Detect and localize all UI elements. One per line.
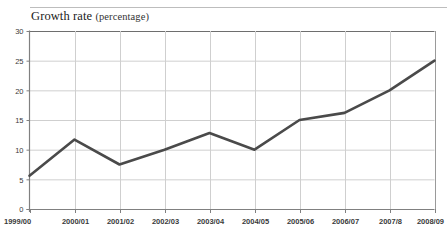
x-axis-tick-label: 2006/07 [332,217,359,226]
gridlines [30,31,436,209]
x-axis-tick-labels: 1999/002000/012001/022002/032003/042004/… [4,217,444,226]
y-axis-tick-label: 5 [19,176,23,185]
y-axis-tick-label: 20 [15,87,23,96]
y-axis-tick-label: 0 [19,205,23,214]
y-axis-tick-labels: 051015202530 [15,27,23,214]
x-axis-tick-label: 2003/04 [197,217,225,226]
chart-figure: Growth rate (percentage) 051015202530 19… [0,0,447,242]
data-series-line [30,61,435,176]
x-axis-tick-label: 2001/02 [107,217,134,226]
x-axis-tick-label: 2002/03 [152,217,179,226]
y-axis-tick-label: 10 [15,146,23,155]
y-axis-tick-label: 30 [15,27,23,36]
y-axis-tick-label: 15 [15,116,23,125]
x-axis-tick-label: 2004/05 [242,217,269,226]
x-axis-tick-label: 1999/00 [4,217,31,226]
chart-plot-area: 051015202530 1999/002000/012001/022002/0… [0,0,447,242]
axis-lines [27,31,436,214]
y-axis-tick-label: 25 [15,57,23,66]
x-axis-tick-label: 2007/8 [379,217,402,226]
series-growth-rate [30,61,435,176]
x-axis-tick-label: 2000/01 [62,217,89,226]
x-axis-tick-label: 2005/06 [287,217,314,226]
x-axis-tick-label: 2008/09 [417,217,444,226]
